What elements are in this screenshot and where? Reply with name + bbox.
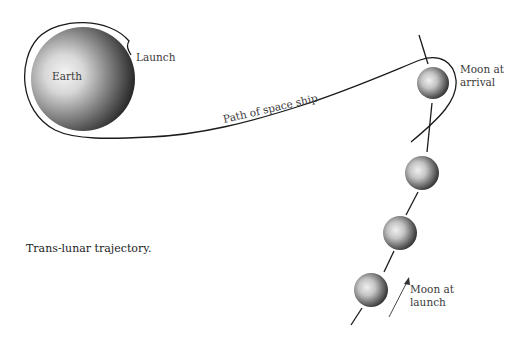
moon-launch-label-line1: Moon at [410,283,455,295]
moon-position-3-sphere [383,216,417,250]
earth-label: Earth [52,70,82,82]
moon-arrival-label-line2: arrival [460,76,496,88]
moon-arrival-label-line1: Moon at [460,63,505,75]
path-label: Path of space ship [222,91,319,125]
moon-at-arrival-sphere [417,67,449,99]
moon-at-launch-sphere [354,273,388,307]
moon-position-2-sphere [405,156,439,190]
trans-lunar-diagram: Earth Launch Path of space ship Moon at … [0,0,522,337]
launch-label: Launch [136,51,176,63]
moon-motion-arrow-icon [389,277,410,317]
figure-caption: Trans-lunar trajectory. [26,242,151,255]
earth-sphere [31,27,135,131]
moon-launch-label-line2: launch [410,296,446,308]
